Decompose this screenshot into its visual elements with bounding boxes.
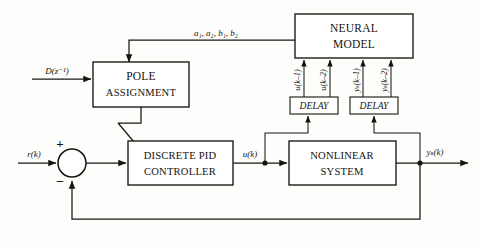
sum-minus-sign: – <box>56 172 64 187</box>
pid-controller-block: DISCRETE PID CONTROLLER <box>128 141 233 185</box>
nonlinear-system-block: NONLINEAR SYSTEM <box>289 141 396 185</box>
reference-label: r(k) <box>27 149 41 159</box>
control-block-diagram: NEURAL MODEL DELAY DELAY u(k–1) u(k–2) y… <box>0 0 482 246</box>
signal-u-k-2: u(k–2) <box>319 69 328 91</box>
design-input-label: D(z⁻¹) <box>44 66 68 76</box>
delay-block-u: DELAY <box>290 97 338 114</box>
delay-y-label: DELAY <box>359 100 390 111</box>
parameter-bus-wire <box>129 40 295 62</box>
delay-block-y: DELAY <box>350 97 398 114</box>
neural-model-line1: NEURAL <box>330 22 378 34</box>
pid-line1: DISCRETE PID <box>144 150 217 161</box>
parameter-label: a₁, a₂, b₁, b₂ <box>194 28 238 38</box>
pid-line2: CONTROLLER <box>144 166 217 177</box>
summing-junction: + – <box>56 136 86 187</box>
nonlinear-line2: SYSTEM <box>321 166 364 177</box>
nonlinear-line1: NONLINEAR <box>310 150 374 161</box>
control-label: u(k) <box>243 149 258 159</box>
pole-assignment-block: POLE ASSIGNMENT <box>93 62 189 107</box>
pole-assignment-line1: POLE <box>126 70 156 82</box>
signal-y-k-2: yₛ(k–2) <box>380 68 389 93</box>
pole-assignment-line2: ASSIGNMENT <box>106 87 177 98</box>
diagram-canvas: NEURAL MODEL DELAY DELAY u(k–1) u(k–2) y… <box>0 0 482 246</box>
neural-model-line2: MODEL <box>333 38 375 50</box>
regressor-arrows <box>304 60 391 97</box>
neural-model-block: NEURAL MODEL <box>295 14 413 58</box>
signal-y-k-1: yₛ(k–1) <box>352 68 361 93</box>
delay-u-label: DELAY <box>299 100 330 111</box>
output-label: yₛ(k) <box>425 147 443 157</box>
signal-u-k-1: u(k–1) <box>293 69 302 91</box>
regressor-labels: u(k–1) u(k–2) yₛ(k–1) yₛ(k–2) <box>293 68 389 93</box>
sum-plus-sign: + <box>56 136 63 151</box>
